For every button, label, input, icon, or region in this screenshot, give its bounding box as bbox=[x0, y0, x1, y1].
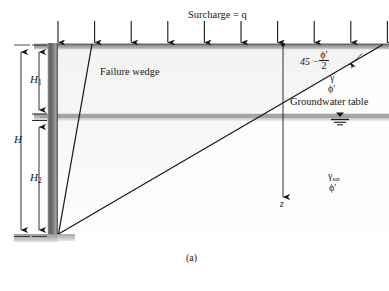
failure-angle-prefix: 45 − bbox=[300, 56, 319, 67]
height-upper-subscript: 1 bbox=[38, 78, 42, 87]
groundwater-table-band bbox=[34, 113, 389, 122]
retaining-wall bbox=[48, 43, 58, 235]
wall-base-strip bbox=[14, 234, 75, 242]
height-upper-label: H1 bbox=[30, 74, 42, 87]
figure-canvas bbox=[0, 0, 389, 291]
upper-soil-friction-label: ϕ′ bbox=[328, 84, 335, 94]
surcharge-label: Surcharge = q bbox=[188, 10, 247, 21]
lower-soil-friction-label: ϕ′ bbox=[329, 183, 336, 193]
failure-angle-denominator: 2 bbox=[319, 61, 328, 71]
upper-soil-unit-weight-label: γ bbox=[330, 73, 334, 83]
depth-axis-label: z bbox=[280, 200, 284, 210]
lower-soil-unit-weight-label: γsat bbox=[328, 171, 340, 183]
height-lower-symbol: H bbox=[30, 171, 38, 183]
groundwater-table-label: Groundwater table bbox=[290, 97, 368, 108]
ground-surface-band bbox=[34, 44, 389, 50]
height-upper-symbol: H bbox=[30, 73, 38, 85]
height-lower-subscript: 2 bbox=[38, 176, 42, 185]
failure-wedge-label: Failure wedge bbox=[100, 67, 160, 78]
surcharge-arrow-group bbox=[58, 21, 387, 43]
failure-angle-label: 45 −ϕ′2 bbox=[300, 50, 329, 71]
lower-soil-gamma-subscript: sat bbox=[332, 175, 340, 182]
geotechnical-retaining-wall-figure: Surcharge = q Failure wedge Groundwater … bbox=[0, 0, 389, 291]
caption-label: (a) bbox=[186, 253, 197, 263]
height-total-label: H bbox=[14, 134, 22, 145]
height-lower-label: H2 bbox=[30, 172, 42, 185]
failure-angle-fraction: ϕ′2 bbox=[319, 50, 328, 71]
